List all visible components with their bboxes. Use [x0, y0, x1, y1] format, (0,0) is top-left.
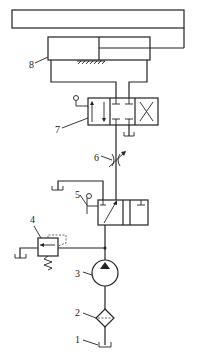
label-8: 8 — [29, 59, 34, 70]
hydraulic-circuit-diagram: 8 7 — [0, 0, 198, 364]
hydraulic-pump: 3 — [75, 260, 118, 286]
label-3: 3 — [75, 268, 80, 279]
throttle-valve: 6 — [94, 151, 126, 167]
filter: 2 — [75, 307, 114, 327]
hydraulic-cylinder: 8 — [29, 28, 184, 70]
relief-valve: 4 — [15, 214, 66, 270]
shutoff-directional-valve: 5 — [52, 181, 148, 225]
pump-arrow-icon — [100, 262, 110, 269]
label-5: 5 — [75, 189, 80, 200]
lever-knob-icon — [74, 96, 79, 101]
label-6: 6 — [94, 152, 99, 163]
lever-knob-icon — [87, 194, 92, 199]
label-2: 2 — [75, 307, 80, 318]
label-1: 1 — [75, 334, 80, 345]
worktable — [12, 10, 184, 28]
label-4: 4 — [30, 214, 35, 225]
label-7: 7 — [55, 124, 60, 135]
directional-control-valve: 7 — [55, 96, 158, 137]
spring-icon — [44, 256, 52, 270]
